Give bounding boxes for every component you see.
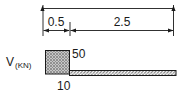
dimension-label-0: 0.5 xyxy=(48,15,65,29)
dimension-segment-0-right-arrow xyxy=(64,28,70,32)
overall-dimension-line xyxy=(40,6,175,12)
shear-bar-10: 10 xyxy=(57,71,176,94)
axis-label-symbol: V xyxy=(6,55,14,69)
dimension-label-1: 2.5 xyxy=(114,15,131,29)
dimension-segment-1-left-arrow xyxy=(71,28,77,32)
shear-block-50-shape xyxy=(46,51,70,75)
dimension-segment-0: 0.5 xyxy=(44,15,70,33)
dimension-segment-1-right-arrow xyxy=(168,28,174,32)
axis-label-unit: (KN) xyxy=(15,61,32,70)
shear-force-diagram: 0.5 2.5 V (KN) 50 10 xyxy=(0,0,181,110)
shear-value-label-50: 50 xyxy=(72,47,86,61)
axis-label: V (KN) xyxy=(6,55,32,70)
shear-bar-10-shape xyxy=(70,71,177,76)
shear-value-label-10: 10 xyxy=(57,79,71,93)
dimension-segment-1: 2.5 xyxy=(71,15,174,33)
shear-block-50: 50 xyxy=(46,47,86,74)
dimension-segment-0-left-arrow xyxy=(44,28,50,32)
